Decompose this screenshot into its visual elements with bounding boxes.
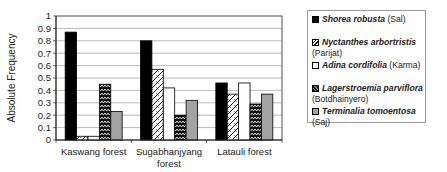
bar-lagerstroemia-parviflora-1	[175, 115, 186, 140]
legend-common: (Sal)	[387, 14, 405, 24]
legend-species: Terminalia tomoentosa	[322, 106, 416, 116]
x-category-label: Latauli forest	[217, 146, 272, 157]
y-tick-label: 0.5	[38, 72, 51, 83]
legend-swatch-white	[312, 62, 319, 69]
bar-lagerstroemia-parviflora-0	[99, 84, 110, 140]
legend-item-nyctanthes: Nyctanthes arbortristis (Parijat)	[312, 37, 416, 58]
legend-swatch-gray	[312, 108, 319, 115]
y-tick-label: 0.7	[38, 48, 51, 59]
legend-common: (Parijat)	[312, 48, 416, 59]
y-axis-title: Absolute Frequency	[6, 34, 17, 123]
legend-common: (Karma)	[389, 60, 420, 70]
bar-terminalia-tomoentosa-2	[261, 94, 272, 140]
legend-swatch-solid	[312, 16, 319, 23]
legend-species: Shorea robusta	[322, 14, 385, 24]
y-tick-label: 0.2	[38, 110, 51, 121]
x-category-label: forest	[157, 158, 181, 169]
y-tick-label: 1	[46, 10, 51, 21]
y-tick-label: 0.6	[38, 60, 51, 71]
bar-terminalia-tomoentosa-1	[186, 100, 197, 140]
legend-swatch-zigzag	[312, 85, 319, 92]
y-tick-label: 0.3	[38, 97, 51, 108]
y-tick-label: 0.4	[38, 85, 51, 96]
legend-common: (Saj)	[312, 117, 416, 128]
legend-item-adina: Adina cordifolia (Karma)	[312, 60, 420, 71]
bar-adina-cordifolia-2	[239, 83, 250, 140]
bar-shorea-robusta-0	[65, 32, 76, 140]
y-tick-label: 0.8	[38, 35, 51, 46]
legend-item-shorea: Shorea robusta (Sal)	[312, 14, 406, 25]
y-tick-label: 0	[46, 134, 51, 145]
legend-species: Nyctanthes arbortristis	[322, 37, 416, 47]
x-category-label: Kaswang forest	[61, 146, 127, 157]
bar-nyctanthes-arbortristis-1	[152, 69, 163, 140]
legend-swatch-hatch	[312, 39, 319, 46]
legend-common: (Botdhainyero)	[312, 94, 423, 105]
bar-adina-cordifolia-1	[163, 88, 174, 140]
legend-item-lagerstroemia: Lagerstroemia parviflora (Botdhainyero)	[312, 83, 423, 104]
bar-terminalia-tomoentosa-0	[111, 111, 122, 140]
bar-lagerstroemia-parviflora-2	[250, 104, 261, 140]
y-tick-labels: 00.10.20.30.40.50.60.70.80.91	[38, 10, 51, 145]
bar-nyctanthes-arbortristis-0	[77, 136, 88, 140]
legend-item-terminalia: Terminalia tomoentosa (Saj)	[312, 106, 416, 127]
x-category-label: Sugabhanjyang	[136, 146, 202, 157]
legend-species: Adina cordifolia	[322, 60, 387, 70]
category-labels: Kaswang forestSugabhanjyangforestLatauli…	[61, 146, 272, 169]
bar-shorea-robusta-1	[141, 41, 152, 140]
bar-adina-cordifolia-0	[88, 136, 99, 140]
legend: Shorea robusta (Sal) Nyctanthes arbortri…	[307, 10, 426, 123]
y-tick-label: 0.9	[38, 23, 51, 34]
y-tick-label: 0.1	[38, 122, 51, 133]
bar-shorea-robusta-2	[216, 83, 227, 140]
legend-species: Lagerstroemia parviflora	[322, 83, 423, 93]
bar-nyctanthes-arbortristis-2	[227, 94, 238, 140]
